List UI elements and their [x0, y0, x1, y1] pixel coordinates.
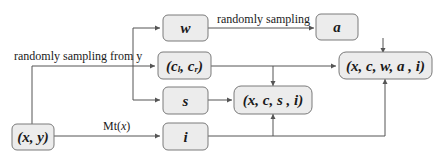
node-x-c-s-i: (x, c, s , i)	[234, 86, 312, 114]
node-s: s	[163, 87, 208, 114]
edges	[32, 28, 385, 136]
node-a: a	[316, 14, 358, 40]
node-w: w	[163, 15, 208, 41]
svg-text:(x, c, w, a , i): (x, c, w, a , i)	[346, 58, 425, 75]
flow-diagram: randomly sampling from y randomly sampli…	[0, 0, 438, 158]
label-randomly-sampling: randomly sampling	[217, 12, 310, 26]
svg-text:s: s	[182, 93, 189, 109]
edge-xy-to-c	[32, 66, 155, 125]
svg-text:(x, c, s , i): (x, c, s , i)	[243, 92, 303, 109]
node-i: i	[163, 123, 208, 150]
node-x-c-w-a-i: (x, c, w, a , i)	[339, 52, 432, 79]
svg-text:(x, y): (x, y)	[17, 129, 49, 146]
svg-text:w: w	[180, 20, 191, 36]
label-randomly-sampling-from-y: randomly sampling from y	[14, 49, 142, 63]
node-cl-cr: (cl, cr)	[158, 52, 211, 79]
node-xy: (x, y)	[12, 124, 54, 150]
svg-text:(cl, cr): (cl, cr)	[166, 58, 203, 75]
edge-branch-to-s	[133, 66, 160, 100]
label-mt-x: Mt(x)	[103, 119, 130, 133]
svg-text:a: a	[333, 19, 341, 35]
